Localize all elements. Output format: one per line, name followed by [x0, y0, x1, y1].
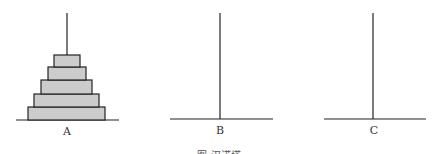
- disk-5: [28, 107, 105, 120]
- peg-a-label: A: [63, 125, 71, 138]
- peg-c: [324, 13, 426, 119]
- disk-2: [48, 67, 86, 80]
- figure-caption: 图 汉诺塔: [197, 147, 240, 154]
- peg-a: [16, 13, 119, 120]
- peg-c-label: C: [370, 124, 378, 137]
- disk-1: [54, 55, 80, 67]
- peg-b: [170, 13, 273, 119]
- disk-3: [41, 80, 92, 94]
- peg-b-label: B: [216, 124, 224, 137]
- disk-4: [34, 94, 99, 107]
